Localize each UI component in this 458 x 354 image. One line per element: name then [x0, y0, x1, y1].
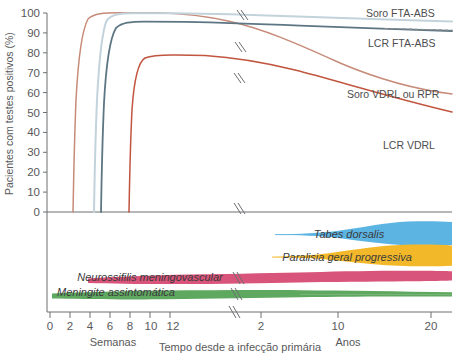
x-axis-title: Tempo desde a infecção primária — [159, 341, 322, 353]
label-lcr-fta-abs: LCR FTA-ABS — [368, 37, 435, 49]
x-tick-label-year-10: 10 — [332, 320, 345, 332]
x-tick-label-year-2: 2 — [258, 320, 264, 332]
band-label-paralisia-geral-progressiva: Paralisia geral progressiva — [282, 251, 412, 263]
syphilis-serology-chart: 100 90 80 70 60 50 40 30 20 10 0 Pacient… — [0, 0, 458, 354]
y-tick-label-70: 70 — [27, 67, 40, 79]
band-label-tabes-dorsalis: Tabes dorsalis — [314, 228, 385, 240]
y-tick-label-30: 30 — [27, 146, 40, 158]
y-tick-label-10: 10 — [27, 186, 40, 198]
label-lcr-vdrl: LCR VDRL — [383, 139, 435, 151]
y-axis-ticks — [43, 13, 47, 212]
y-tick-label-50: 50 — [27, 107, 40, 119]
y-tick-label-60: 60 — [27, 87, 40, 99]
curve-lcr-fta-abs — [101, 22, 452, 212]
y-tick-label-0: 0 — [34, 206, 40, 218]
x-tick-label-week-2: 2 — [67, 320, 73, 332]
y-tick-label-20: 20 — [27, 166, 40, 178]
label-soro-vdrl-rpr: Soro VDRL ou RPR — [347, 88, 440, 100]
x-tick-label-week-4: 4 — [87, 320, 94, 332]
y-tick-label-80: 80 — [27, 47, 40, 59]
curve-lcr-vdrl — [129, 55, 452, 212]
x-axis-segment-title-years: Anos — [335, 336, 361, 348]
band-label-meningite-assintomatica: Meningite assintomática — [57, 286, 175, 298]
x-tick-label-week-12: 12 — [167, 320, 180, 332]
chart-canvas: 100 90 80 70 60 50 40 30 20 10 0 Pacient… — [0, 0, 458, 354]
band-label-neurossifilis-meningovascular: Neurossifilis meningovascular — [77, 271, 224, 283]
weeks-ticks — [50, 312, 170, 318]
years-ticks — [261, 312, 431, 318]
x-tick-label-week-10: 10 — [145, 320, 158, 332]
axis-break-marks-upper — [234, 10, 248, 214]
y-axis-title: Pacientes com testes positivos (%) — [3, 32, 15, 195]
x-tick-label-week-0: 0 — [47, 320, 53, 332]
label-soro-fta-abs: Soro FTA-ABS — [366, 7, 435, 19]
y-tick-label-100: 100 — [21, 7, 40, 19]
stage-bands-panel: Tabes dorsalis Paralisia geral progressi… — [52, 221, 452, 299]
x-tick-label-week-6: 6 — [107, 320, 113, 332]
x-tick-label-year-20: 20 — [425, 320, 438, 332]
y-tick-label-40: 40 — [27, 126, 40, 138]
y-tick-label-90: 90 — [27, 27, 40, 39]
x-axis-segment-title-weeks: Semanas — [90, 336, 137, 348]
x-tick-label-week-8: 8 — [127, 320, 133, 332]
